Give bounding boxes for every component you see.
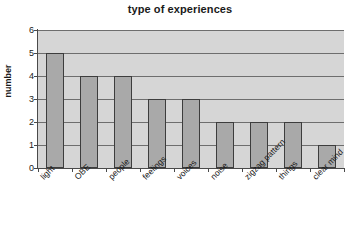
- y-tick-label: 2: [10, 118, 34, 127]
- bar: [46, 53, 64, 168]
- x-tick-mark: [38, 168, 39, 172]
- x-tick-mark: [276, 168, 277, 172]
- x-tick-mark: [174, 168, 175, 172]
- bar: [114, 76, 132, 168]
- x-tick-mark: [344, 168, 345, 172]
- y-axis-ticks: 0123456: [4, 30, 34, 168]
- x-tick-mark: [242, 168, 243, 172]
- x-tick-mark: [106, 168, 107, 172]
- y-tick-label: 5: [10, 49, 34, 58]
- gridline: [38, 30, 344, 31]
- x-axis-labels: lightOBEpeoplefeelingsvoicesnoisezigzag …: [0, 168, 360, 231]
- bar: [216, 122, 234, 168]
- bar-chart: type of experiences number 0123456 light…: [0, 0, 360, 231]
- bar: [80, 76, 98, 168]
- x-tick-mark: [310, 168, 311, 172]
- y-tick-label: 3: [10, 95, 34, 104]
- x-tick-mark: [72, 168, 73, 172]
- x-tick-mark: [140, 168, 141, 172]
- chart-title: type of experiences: [0, 3, 360, 15]
- y-tick-label: 1: [10, 141, 34, 150]
- y-tick-label: 4: [10, 72, 34, 81]
- plot-area: [38, 30, 344, 168]
- y-axis-line: [37, 29, 38, 169]
- gridline: [38, 53, 344, 54]
- y-tick-label: 6: [10, 26, 34, 35]
- x-tick-mark: [208, 168, 209, 172]
